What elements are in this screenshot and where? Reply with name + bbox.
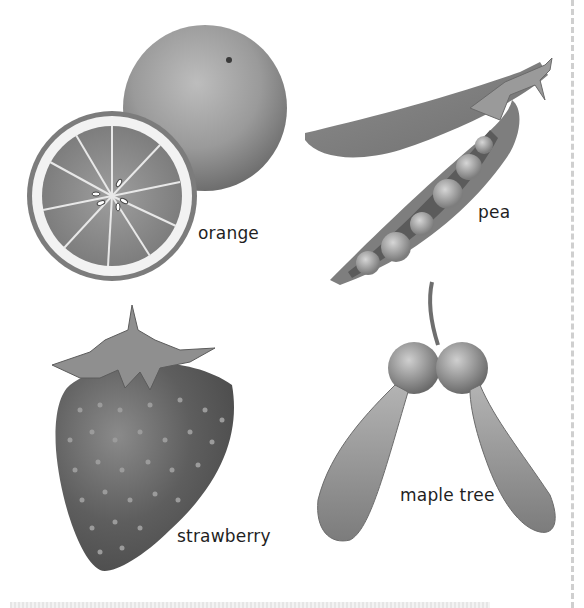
orange-whole-illustration <box>0 0 584 608</box>
label-orange: orange <box>198 223 259 243</box>
orange-half-illustration <box>27 111 197 281</box>
label-pea: pea <box>478 202 510 222</box>
page-cut-line <box>571 0 574 608</box>
pea-pod-illustration <box>305 58 552 285</box>
label-maple-tree: maple tree <box>400 485 495 505</box>
bottom-hatched-strip <box>10 602 490 608</box>
label-strawberry: strawberry <box>177 526 271 546</box>
illustration-page: orange pea strawberry maple tree <box>0 0 584 608</box>
